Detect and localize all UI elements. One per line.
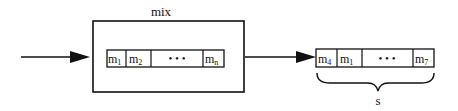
cell-mn: mn [205, 52, 218, 67]
output-message-row: m4 m1 • • • m7 [316, 49, 434, 67]
cell-m1: m1 [108, 52, 121, 67]
cell-m1-out: m1 [340, 52, 353, 67]
cell-ellipsis: • • • [168, 52, 185, 64]
output-label: s [375, 93, 380, 108]
input-message-row: m1 m2 • • • mn [107, 50, 224, 67]
cell-m2: m2 [129, 52, 142, 67]
output-arrow [245, 51, 316, 63]
input-arrow [21, 51, 90, 63]
cell-ellipsis-out: • • • [378, 52, 395, 64]
curly-brace [317, 73, 434, 91]
mix-diagram: mix m1 m2 • • • mn m4 m1 • • • m7 s [0, 0, 458, 111]
cell-m7: m7 [415, 52, 428, 67]
mix-label: mix [151, 4, 172, 19]
cell-m4: m4 [318, 52, 331, 67]
